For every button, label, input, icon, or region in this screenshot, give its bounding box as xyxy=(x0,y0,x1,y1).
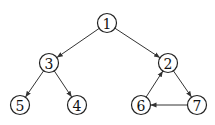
nodes-group: 1325467 xyxy=(11,14,207,115)
node-label: 7 xyxy=(193,98,202,114)
node-4: 4 xyxy=(68,96,87,115)
node-label: 1 xyxy=(103,16,112,32)
edge-3-to-5 xyxy=(25,71,43,97)
node-label: 4 xyxy=(73,98,82,114)
edge-3-to-4 xyxy=(54,71,71,97)
directed-graph: 1325467 xyxy=(0,0,215,125)
node-7: 7 xyxy=(188,96,207,115)
edge-1-to-2 xyxy=(115,28,160,58)
node-6: 6 xyxy=(132,96,151,115)
node-label: 6 xyxy=(137,98,146,114)
node-2: 2 xyxy=(159,54,178,73)
node-label: 2 xyxy=(164,56,173,72)
node-label: 3 xyxy=(45,56,54,72)
node-label: 5 xyxy=(16,98,25,114)
node-5: 5 xyxy=(11,96,30,115)
edge-6-to-2 xyxy=(146,71,163,97)
node-1: 1 xyxy=(98,14,117,33)
edge-2-to-7 xyxy=(173,71,191,97)
node-3: 3 xyxy=(40,54,59,73)
edge-1-to-3 xyxy=(57,28,99,57)
